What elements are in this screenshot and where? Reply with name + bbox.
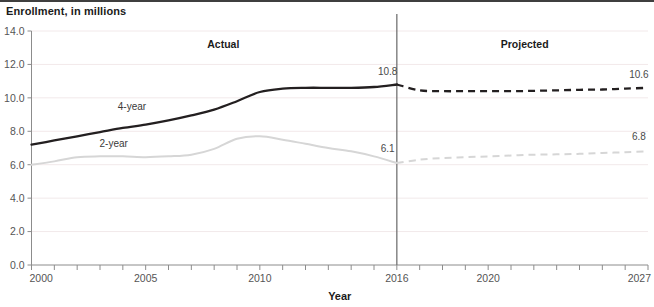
- grid-lines: [32, 31, 649, 232]
- y-axis: 0.02.04.06.08.010.012.014.0: [4, 25, 31, 271]
- enrollment-chart-figure: Enrollment, in millions 0.02.04.06.08.01…: [0, 0, 654, 307]
- y-axis-tick-label: 14.0: [4, 25, 25, 37]
- y-axis-tick-label: 2.0: [10, 225, 25, 237]
- y-axis-tick-label: 12.0: [4, 58, 25, 70]
- x-axis-tick-label: 2020: [476, 272, 500, 284]
- two-year-series-label: 2-year: [100, 138, 129, 149]
- x-axis-tick-label: 2016: [385, 272, 409, 284]
- y-axis-tick-label: 10.0: [4, 92, 25, 104]
- series-line-actual-4-year: [32, 84, 397, 144]
- two-year-actual-endpoint-label: 6.1: [381, 143, 395, 154]
- two-year-projected-endpoint-label: 6.8: [632, 131, 646, 142]
- x-axis-tick-label: 2005: [134, 272, 158, 284]
- series-line-projected-2-year: [397, 151, 648, 163]
- x-axis-tick-label: 2000: [30, 272, 54, 284]
- four-year-projected-endpoint-label: 10.6: [629, 69, 649, 80]
- x-axis-tick-label: 2027: [628, 272, 652, 284]
- actual-region-label: Actual: [207, 38, 239, 50]
- chart-plot-svg: 0.02.04.06.08.010.012.014.0 200020052010…: [0, 0, 654, 307]
- x-axis: 200020052010201620202027: [30, 265, 652, 284]
- y-axis-tick-label: 0.0: [10, 259, 25, 271]
- axis-titles: Year: [328, 290, 352, 302]
- projected-region-label: Projected: [501, 38, 549, 50]
- chart-annotations: ActualProjected4-year2-year10.86.110.66.…: [100, 38, 650, 154]
- series-line-actual-2-year: [32, 136, 397, 164]
- x-axis-title: Year: [328, 290, 352, 302]
- y-axis-tick-label: 4.0: [10, 192, 25, 204]
- data-series-lines: [32, 84, 649, 164]
- four-year-series-label: 4-year: [118, 101, 147, 112]
- y-axis-tick-label: 6.0: [10, 159, 25, 171]
- y-axis-tick-label: 8.0: [10, 125, 25, 137]
- x-axis-tick-label: 2010: [248, 272, 272, 284]
- four-year-actual-endpoint-label: 10.8: [378, 66, 398, 77]
- series-line-projected-4-year: [397, 84, 648, 91]
